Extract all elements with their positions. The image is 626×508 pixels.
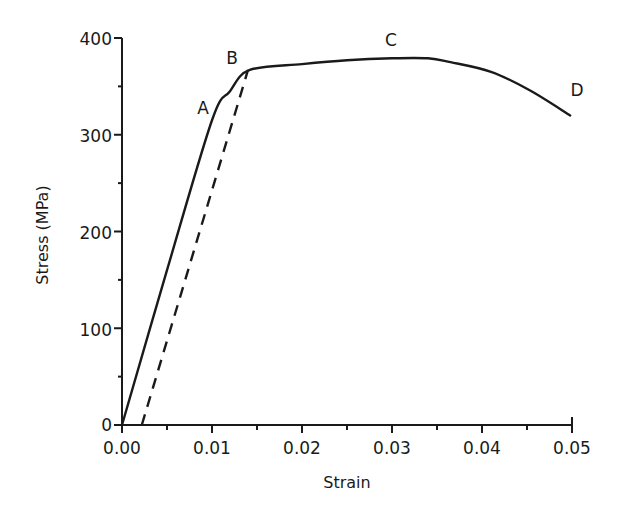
y-tick-label: 100 (80, 320, 112, 340)
stress-strain-curve (122, 58, 570, 425)
axes (122, 38, 572, 425)
x-tick-label: 0.01 (193, 438, 231, 458)
x-tick-label: 0.03 (373, 438, 411, 458)
y-tick-label: 400 (80, 29, 112, 49)
y-tick-label: 300 (80, 126, 112, 146)
x-tick-label: 0.02 (283, 438, 321, 458)
point-label-d: D (570, 80, 583, 100)
stress-strain-chart: 0 100 200 300 400 0.00 0.01 0.02 0.03 0.… (0, 0, 626, 508)
x-tick-label: 0.04 (463, 438, 501, 458)
y-tick-label: 0 (101, 415, 112, 435)
point-label-a: A (197, 98, 209, 118)
y-ticks (114, 38, 122, 425)
y-axis-title: Stress (MPa) (33, 185, 52, 284)
unloading-dashed-line (142, 70, 248, 425)
x-tick-label: 0.00 (103, 438, 141, 458)
y-tick-label: 200 (80, 223, 112, 243)
point-label-b: B (226, 48, 238, 68)
x-tick-label: 0.05 (553, 438, 591, 458)
y-tick-labels: 0 100 200 300 400 (80, 29, 112, 435)
point-label-c: C (385, 30, 397, 50)
x-tick-labels: 0.00 0.01 0.02 0.03 0.04 0.05 (103, 438, 591, 458)
x-axis-title: Strain (323, 473, 370, 492)
